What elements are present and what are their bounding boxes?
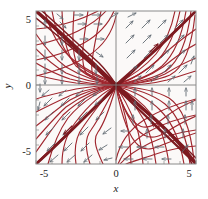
phase-portrait-figure: -5 0 5 5 0 -5 x y — [0, 0, 208, 199]
x-tick-label-zero: 0 — [113, 168, 118, 179]
x-axis-label: x — [113, 182, 119, 194]
y-tick-label-zero: 0 — [26, 80, 31, 91]
phase-portrait-plot: -5 0 5 5 0 -5 x y — [0, 0, 208, 199]
y-axis-label: y — [1, 83, 13, 89]
y-tick-label-5: 5 — [26, 14, 31, 25]
x-tick-label-minus-5: -5 — [40, 168, 49, 179]
y-tick-label-minus-5: -5 — [22, 146, 31, 157]
x-tick-label-5: 5 — [186, 168, 191, 179]
